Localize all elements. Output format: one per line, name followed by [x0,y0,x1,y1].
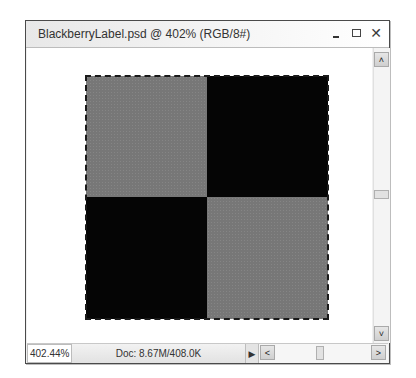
horizontal-scroll-thumb[interactable] [316,346,324,360]
checker-cell-bottom-right [207,197,328,319]
checker-cell-top-right [207,76,328,197]
vertical-scroll-thumb[interactable] [374,190,389,199]
minimize-icon [333,36,339,38]
window-controls: ✕ [329,25,383,41]
status-menu-button[interactable]: ▶ [245,344,259,363]
document-title: BlackberryLabel.psd @ 402% (RGB/8#) [38,27,250,41]
title-bar[interactable]: BlackberryLabel.psd @ 402% (RGB/8#) ✕ [26,21,389,48]
checker-cell-bottom-left [86,197,207,319]
doc-size-info: Doc: 8.67M/408.0K [72,344,245,363]
scroll-right-button[interactable]: > [371,345,386,360]
vertical-scrollbar[interactable]: ˄ ˅ [373,48,390,343]
horizontal-scrollbar[interactable]: < > [259,344,388,363]
close-icon: ✕ [370,26,382,40]
maximize-button[interactable] [349,25,363,41]
close-button[interactable]: ✕ [369,25,383,41]
maximize-icon [352,29,361,37]
canvas-area[interactable] [27,48,372,343]
zoom-level-field[interactable]: 402.44% [27,344,72,363]
triangle-right-icon: ▶ [249,349,256,359]
scroll-up-button[interactable]: ˄ [374,52,389,67]
minimize-button[interactable] [329,25,343,41]
checker-cell-top-left [86,76,207,197]
zoom-level-value: 402.44% [30,348,69,359]
chevron-right-icon: > [376,348,381,358]
chevron-left-icon: < [265,348,270,358]
scroll-down-button[interactable]: ˅ [374,326,389,341]
chevron-down-icon: ˅ [379,329,384,339]
status-bar: 402.44% Doc: 8.67M/408.0K ▶ < > [27,343,388,363]
document-window: BlackberryLabel.psd @ 402% (RGB/8#) ✕ ˄ [25,20,390,364]
chevron-up-icon: ˄ [379,55,384,65]
doc-size-text: Doc: 8.67M/408.0K [116,348,202,359]
scroll-left-button[interactable]: < [260,345,275,360]
checkerboard-image [86,76,328,319]
